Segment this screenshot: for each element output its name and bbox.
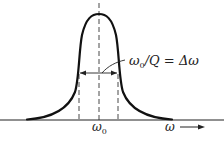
center-frequency-label: ω0 — [92, 120, 107, 136]
resonance-diagram: ω0/Q = Δω ω0 ω — [0, 0, 224, 141]
arrowhead-left-icon — [80, 71, 86, 76]
arrowhead-right-icon — [111, 71, 117, 76]
bandwidth-arrow — [80, 71, 117, 76]
label-leader-line — [102, 60, 125, 73]
x-axis-label: ω — [165, 120, 175, 134]
axis-direction-arrow-icon — [180, 125, 205, 130]
bandwidth-label: ω0/Q = Δω — [129, 53, 199, 70]
